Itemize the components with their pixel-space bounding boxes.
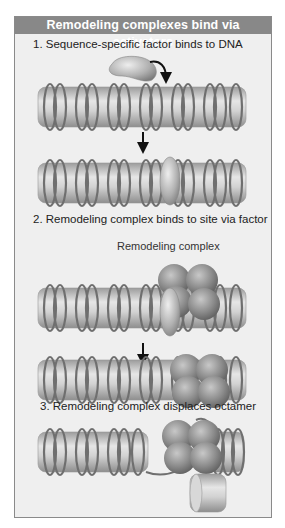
nucleosome-fiber-5-octamer-displaced bbox=[38, 419, 244, 475]
nucleosome-fiber-2-with-bound-factor bbox=[38, 157, 246, 206]
step-1-label: 1. Sequence-specific factor binds to DNA bbox=[33, 38, 243, 50]
displaced-histone-octamer bbox=[190, 474, 226, 512]
nucleosome-fiber-1 bbox=[38, 84, 246, 130]
step-3-label: 3. Remodeling complex displaces octamer bbox=[40, 400, 256, 412]
step-2-label: 2. Remodeling complex binds to site via … bbox=[33, 213, 268, 225]
sequence-specific-factor bbox=[109, 56, 156, 81]
remodeling-complex-label: Remodeling complex bbox=[117, 240, 220, 252]
diagram-artwork bbox=[0, 0, 285, 528]
nucleosome-fiber-3-with-remodeling-complex bbox=[38, 264, 246, 336]
